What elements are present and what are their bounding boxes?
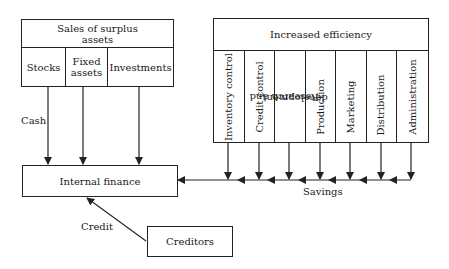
savings-label: Savings bbox=[303, 186, 343, 197]
efficiency-item-marketing: Marketing bbox=[336, 51, 367, 142]
efficiency-item-administration: Administration bbox=[397, 51, 428, 142]
increased-efficiency-box: Increased efficiency Inventory control C… bbox=[213, 18, 429, 143]
fixed-assets-line1: Fixed bbox=[72, 56, 100, 67]
sales-box-title: Sales of surplus assets bbox=[22, 20, 173, 48]
sales-of-surplus-assets-box: Sales of surplus assets Stocks Fixed ass… bbox=[21, 19, 174, 87]
administration-label: Administration bbox=[408, 59, 418, 135]
sales-item-fixed-assets: Fixed assets bbox=[66, 48, 108, 86]
marketing-label: Marketing bbox=[346, 80, 356, 133]
investments-label: Investments bbox=[109, 62, 171, 73]
sales-item-stocks: Stocks bbox=[22, 48, 66, 86]
creditors-box: Creditors bbox=[147, 226, 233, 257]
efficiency-box-title: Increased efficiency bbox=[214, 19, 428, 51]
credit-label: Credit bbox=[81, 221, 113, 232]
internal-finance-box: Internal finance bbox=[22, 165, 178, 197]
distribution-label: Distribution bbox=[377, 75, 387, 136]
efficiency-title: Increased efficiency bbox=[270, 29, 372, 40]
inventory-control-label: Inventory control bbox=[224, 52, 234, 140]
internal-finance-label: Internal finance bbox=[60, 176, 141, 187]
production-label: Production bbox=[316, 79, 326, 135]
efficiency-item-production: Production bbox=[306, 51, 336, 142]
fixed-assets-line2: assets bbox=[71, 67, 102, 78]
cash-label: Cash bbox=[21, 115, 46, 126]
sales-item-investments: Investments bbox=[108, 48, 173, 86]
sales-title-line1: Sales of surplus bbox=[57, 23, 138, 34]
efficiency-item-inventory-control: Inventory control bbox=[214, 51, 245, 142]
creditors-label: Creditors bbox=[166, 236, 214, 247]
efficiency-item-research-development: Research and development bbox=[275, 51, 306, 142]
efficiency-item-distribution: Distribution bbox=[367, 51, 397, 142]
stocks-label: Stocks bbox=[27, 62, 61, 73]
sales-title-line2: assets bbox=[82, 34, 113, 45]
